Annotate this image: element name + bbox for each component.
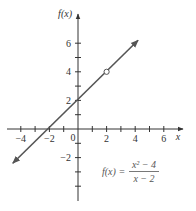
formula-lhs: f(x) =	[102, 166, 125, 178]
x-tick-label-6: 6	[161, 133, 166, 144]
formula-numerator: x² − 4	[131, 159, 156, 170]
x-tick-label-neg2: −2	[44, 133, 55, 144]
x-axis: −4 −2 0 2 4 6 x	[7, 126, 183, 144]
y-tick-label-neg2: −2	[60, 152, 71, 163]
function-graph: −4 −2 0 2 4 6 x 6 4 2 −2 f(x) f(x	[0, 0, 196, 211]
function-line	[13, 40, 138, 163]
x-axis-label: x	[175, 131, 181, 142]
formula-denominator: x − 2	[132, 173, 154, 184]
x-tick-label-neg4: −4	[15, 133, 26, 144]
open-circle-hole	[104, 69, 109, 74]
x-tick-label-4: 4	[133, 133, 138, 144]
y-axis-label: f(x)	[58, 8, 73, 20]
origin-label: 0	[71, 132, 76, 143]
x-tick-label-2: 2	[104, 133, 109, 144]
y-tick-label-2: 2	[66, 95, 71, 106]
y-axis: 6 4 2 −2 f(x)	[58, 8, 81, 201]
y-tick-label-6: 6	[66, 38, 71, 49]
y-tick-label-4: 4	[66, 66, 71, 77]
formula: f(x) = x² − 4 x − 2	[102, 159, 159, 184]
